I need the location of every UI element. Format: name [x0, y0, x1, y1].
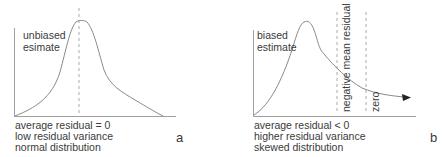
panel-a-curve-label-line1: unbiased: [23, 29, 66, 41]
panel-b-negative-mean-label: negative mean residual: [340, 3, 352, 112]
panel-b-caption: average residual < 0 higher residual var…: [254, 120, 365, 153]
panel-b-caption-line: skewed distribution: [254, 142, 365, 153]
panel-a-caption: average residual = 0 low residual varian…: [15, 120, 113, 153]
panel-b-curve-label: biased estimate: [257, 29, 297, 53]
panel-b-curve-label-line1: biased: [257, 29, 297, 41]
arrowhead-icon: [402, 94, 411, 101]
panel-b-zero-label: zero: [369, 92, 381, 112]
panel-a-curve-label: unbiased esimate: [23, 29, 66, 53]
panel-a-caption-line: normal distribution: [15, 142, 113, 153]
panel-b-tag: b: [430, 130, 437, 145]
panel-a-tag: a: [176, 130, 183, 145]
panel-a-curve-label-line2: esimate: [23, 41, 66, 53]
panel-b-curve-label-line2: estimate: [257, 41, 297, 53]
